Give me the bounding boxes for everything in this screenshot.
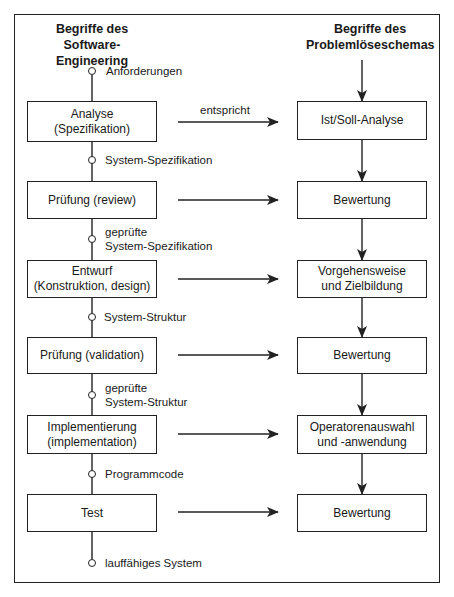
problem-box-vorgehensweise: Vorgehensweise und Zielbildung [297,260,427,298]
box-text: Analyse [71,107,114,122]
artifact-text: System-Spezifikation [105,239,212,253]
box-text: Operatorenauswahl [310,420,415,435]
process-box-entwurf: Entwurf (Konstruktion, design) [27,260,157,298]
artifact-label-anforderungen: Anforderungen [106,64,182,78]
box-text: Bewertung [333,506,390,521]
artifact-label-gepruefte-spezifikation: geprüfte System-Spezifikation [105,225,212,253]
right-column-header: Begriffe des Problemlöseschemas [306,21,434,53]
right-header-line1: Begriffe des [306,21,434,37]
problem-box-ist-soll: Ist/Soll-Analyse [297,101,427,140]
artifact-text: System-Struktur [104,311,186,323]
box-text: und -anwendung [317,435,406,450]
artifact-node-icon [88,559,96,567]
artifact-label-gepruefte-struktur: geprüfte System-Struktur [105,381,187,409]
box-text: (Konstruktion, design) [34,279,151,294]
artifact-text: lauffähiges System [105,557,202,569]
artifact-node-icon [88,470,96,478]
artifact-text: System-Spezifikation [105,154,212,166]
box-text: Bewertung [333,193,390,208]
problem-box-bewertung-1: Bewertung [297,181,427,219]
artifact-node-icon [88,156,96,164]
left-header-line1: Begriffe des [30,21,154,37]
process-box-review: Prüfung (review) [27,181,157,219]
artifact-label-system-spezifikation: System-Spezifikation [105,153,212,167]
artifact-label-programmcode: Programmcode [105,467,184,481]
box-text: Prüfung (review) [48,193,136,208]
artifact-node-icon [88,67,96,75]
box-text: Entwurf [72,264,113,279]
artifact-text: geprüfte [105,381,187,395]
box-text: Implementierung [47,420,136,435]
relation-label-entspricht: entspricht [200,103,250,117]
artifact-text: Programmcode [105,468,184,480]
problem-box-bewertung-2: Bewertung [297,337,427,374]
box-text: (implementation) [47,435,136,450]
artifact-node-icon [88,313,96,321]
box-text: Bewertung [333,348,390,363]
box-text: Ist/Soll-Analyse [321,113,404,128]
process-box-implementierung: Implementierung (implementation) [27,415,157,454]
problem-box-bewertung-3: Bewertung [297,494,427,532]
box-text: Prüfung (validation) [40,348,144,363]
left-column-header: Begriffe des Software-Engineering [30,21,154,69]
artifact-text: geprüfte [105,225,212,239]
process-box-validation: Prüfung (validation) [27,337,157,374]
process-box-test: Test [27,494,157,532]
problem-box-operatoren: Operatorenauswahl und -anwendung [297,415,427,454]
process-box-analyse: Analyse (Spezifikation) [27,101,157,142]
artifact-node-icon [88,235,96,243]
box-text: (Spezifikation) [54,122,130,137]
box-text: und Zielbildung [321,279,402,294]
artifact-text: Anforderungen [106,65,182,77]
artifact-label-lauffaehiges-system: lauffähiges System [105,556,202,570]
box-text: Test [81,506,103,521]
right-header-line2: Problemlöseschemas [306,37,434,53]
artifact-text: System-Struktur [105,395,187,409]
box-text: Vorgehensweise [318,264,406,279]
artifact-node-icon [88,391,96,399]
artifact-label-system-struktur: System-Struktur [104,310,186,324]
